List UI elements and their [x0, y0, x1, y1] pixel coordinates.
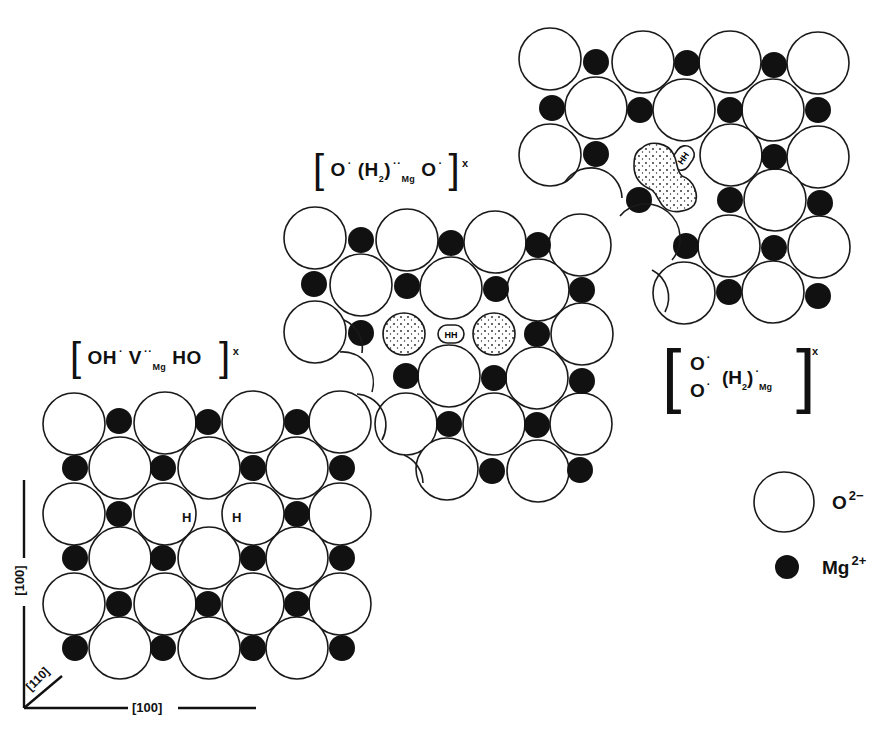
magnesium-ion [717, 187, 743, 213]
magnesium-ion [569, 277, 595, 303]
hydrogen-label-left: H [182, 510, 191, 525]
lattice-oh-vacancy [43, 391, 371, 679]
oxygen-ion [551, 303, 613, 365]
stippled-oxygen-ion [473, 313, 515, 355]
oxygen-ion [565, 77, 627, 139]
magnesium-ion [717, 97, 743, 123]
hydrogen-label-right: H [232, 510, 241, 525]
magnesium-ion [807, 190, 833, 216]
oxygen-ion [507, 440, 569, 502]
oxygen-ion [653, 79, 715, 141]
magnesium-ion [240, 545, 266, 571]
magnesium-ion [284, 591, 310, 617]
magnesium-ion [62, 545, 88, 571]
legend-oxygen-label: O2− [832, 492, 864, 514]
oxygen-ion [89, 437, 151, 499]
magnesium-ion [240, 455, 266, 481]
magnesium-ion [438, 230, 464, 256]
magnesium-ion [525, 232, 551, 258]
magnesium-ion [195, 409, 221, 435]
oxygen-ion [463, 393, 525, 455]
magnesium-ion [329, 635, 355, 661]
magnesium-ion [524, 412, 550, 438]
magnesium-ion [394, 273, 420, 299]
oxygen-ion [266, 617, 328, 679]
magnesium-ion [673, 233, 699, 259]
defect-label-h2-middle: [ O· (H2)··Mg O· ]x [313, 159, 469, 181]
magnesium-ion [150, 545, 176, 571]
oxygen-ion [222, 391, 284, 453]
magnesium-ion [583, 49, 609, 75]
oxygen-ion [330, 254, 392, 316]
magnesium-ion [805, 97, 831, 123]
oxygen-ion [788, 216, 850, 278]
magnesium-ion [106, 501, 132, 527]
magnesium-ion [62, 455, 88, 481]
oxygen-ion [464, 211, 526, 273]
oxygen-ion [744, 169, 806, 231]
oxygen-ion [178, 527, 240, 589]
magnesium-ion [539, 95, 565, 121]
magnesium-ion [284, 501, 310, 527]
oxygen-ion [266, 527, 328, 589]
oxygen-ion [178, 617, 240, 679]
oxygen-ion [698, 215, 760, 277]
magnesium-ion [761, 52, 787, 78]
oxygen-ion [742, 261, 804, 323]
oxygen-ion [519, 28, 581, 90]
magnesium-ion [150, 635, 176, 661]
oxygen-ion [653, 262, 715, 324]
magnesium-ion [479, 458, 505, 484]
lattice-h2-right: HH [519, 28, 850, 324]
oxygen-ion [43, 393, 105, 455]
defect-label-oh-vacancy: [ OH· V··Mg HO ]x [70, 347, 239, 369]
oxygen-ion [89, 617, 151, 679]
magnesium-ion [329, 545, 355, 571]
magnesium-ion [106, 591, 132, 617]
oxygen-ion [43, 573, 105, 635]
oxygen-ion [134, 392, 196, 454]
magnesium-ion [483, 276, 509, 302]
axis-label-vertical-100: [100] [12, 565, 27, 595]
magnesium-ion [62, 635, 88, 661]
oxygen-ion [699, 31, 761, 93]
oxygen-ion [519, 124, 581, 186]
magnesium-ion [301, 271, 327, 297]
magnesium-ion [761, 235, 787, 261]
stippled-oxygen-ion [383, 313, 425, 355]
oxygen-ion [416, 438, 478, 500]
magnesium-ion [716, 279, 742, 305]
magnesium-ion [329, 455, 355, 481]
magnesium-ion [626, 187, 652, 213]
lattice-h2-middle: HH [284, 207, 613, 502]
oxygen-ion [787, 32, 849, 94]
magnesium-ion [761, 144, 787, 170]
magnesium-ion [195, 591, 221, 617]
magnesium-ion [240, 635, 266, 661]
magnesium-ion [393, 363, 419, 389]
oxygen-ion [284, 207, 346, 269]
oxygen-ion [266, 437, 328, 499]
magnesium-ion [481, 365, 507, 391]
oxygen-ion [43, 483, 105, 545]
magnesium-ion [567, 457, 593, 483]
oxygen-ion [418, 345, 480, 407]
oxygen-ion [284, 301, 346, 363]
magnesium-ion [436, 411, 462, 437]
magnesium-ion [106, 408, 132, 434]
magnesium-ion [524, 321, 550, 347]
oxygen-ion [420, 257, 482, 319]
magnesium-ion [627, 97, 653, 123]
magnesium-ion [284, 409, 310, 435]
oxygen-ion [178, 437, 240, 499]
oxygen-ion [506, 347, 568, 409]
legend-magnesium-symbol [775, 555, 799, 579]
magnesium-ion [569, 368, 595, 394]
magnesium-ion [583, 141, 609, 167]
magnesium-ion [674, 50, 700, 76]
magnesium-ion [348, 227, 374, 253]
oxygen-ion [376, 209, 438, 271]
oxygen-ion [612, 31, 674, 93]
oxygen-ion [550, 393, 612, 455]
oxygen-ion [89, 527, 151, 589]
